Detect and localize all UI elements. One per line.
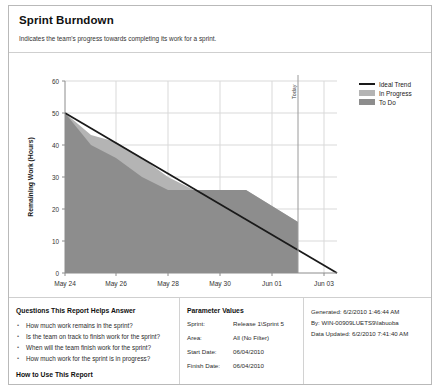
param-value: All (No Filter) — [233, 334, 296, 348]
param-label: Area: — [187, 334, 233, 348]
burndown-chart: Today 60 50 40 30 20 10 — [9, 53, 431, 296]
list-item: • When will the team finish work for the… — [16, 342, 172, 353]
param-value: 06/04/2010 — [233, 348, 296, 362]
report-header: Sprint Burndown Indicates the team's pro… — [9, 6, 431, 43]
bullet-icon: • — [17, 353, 19, 364]
bullet-icon: • — [17, 320, 19, 331]
bottom-panels: Questions This Report Helps Answer • How… — [9, 298, 431, 384]
y-tick-label: 60 — [52, 78, 60, 85]
param-value: Release 1\Sprint 5 — [233, 320, 296, 334]
y-tick-labels: 60 50 40 30 20 10 0 — [52, 78, 60, 277]
parameter-values-table: Sprint: Release 1\Sprint 5 Area: All (No… — [187, 320, 296, 376]
legend-label-ideal-trend: Ideal Trend — [379, 81, 411, 88]
x-tick-label: May 24 — [54, 280, 76, 288]
param-value: 06/04/2010 — [233, 362, 296, 376]
page-title: Sprint Burndown — [19, 13, 421, 27]
param-label: Sprint: — [187, 320, 233, 334]
bullet-icon: • — [17, 342, 19, 353]
questions-panel-heading: Questions This Report Helps Answer — [16, 306, 172, 315]
table-row: Area: All (No Filter) — [187, 334, 296, 348]
question-text: Is the team on track to finish work for … — [26, 333, 160, 340]
today-label: Today — [291, 84, 297, 99]
parameter-values-heading: Parameter Values — [187, 306, 296, 315]
x-tick-label: May 28 — [157, 280, 179, 288]
y-tick-label: 40 — [52, 142, 60, 149]
questions-panel: Questions This Report Helps Answer • How… — [9, 298, 179, 384]
table-row: Finish Date: 06/04/2010 — [187, 362, 296, 376]
report-frame: Sprint Burndown Indicates the team's pro… — [8, 5, 432, 385]
y-tick-label: 20 — [52, 206, 60, 213]
question-text: How much work for the sprint is in progr… — [26, 355, 150, 362]
chart-legend: Ideal Trend In Progress To Do — [359, 81, 412, 106]
y-tick-label: 0 — [55, 270, 59, 277]
generated-by-user: By: WIN-00909LUETS9\labuoba — [311, 317, 424, 328]
x-tick-labels: May 24 May 26 May 28 May 30 Jun 01 Jun 0… — [54, 280, 334, 288]
list-item: • Is the team on track to finish work fo… — [16, 331, 172, 342]
y-tick-label: 30 — [52, 174, 60, 181]
x-tick-label: Jun 01 — [262, 280, 282, 287]
table-row: Sprint: Release 1\Sprint 5 — [187, 320, 296, 334]
x-tick-label: May 30 — [209, 280, 231, 288]
legend-swatch-in-progress — [359, 90, 375, 96]
how-to-use-this-report-link[interactable]: How to Use This Report — [16, 370, 172, 379]
chart-svg: Today 60 50 40 30 20 10 — [9, 53, 431, 296]
report-subtitle: Indicates the team's progress towards co… — [19, 34, 421, 43]
report-metadata-panel: Generated: 6/2/2010 1:46:44 AM By: WIN-0… — [303, 298, 431, 384]
param-label: Finish Date: — [187, 362, 233, 376]
generated-timestamp: Generated: 6/2/2010 1:46:44 AM — [311, 306, 424, 317]
param-label: Start Date: — [187, 348, 233, 362]
questions-list: • How much work remains in the sprint? •… — [16, 320, 172, 364]
x-tick-label: Jun 03 — [314, 280, 334, 287]
question-text: How much work remains in the sprint? — [26, 322, 133, 329]
legend-label-in-progress: In Progress — [379, 90, 412, 98]
question-text: When will the team finish work for the s… — [26, 344, 151, 351]
y-axis-title: Remaining Work (Hours) — [27, 137, 35, 217]
table-row: Start Date: 06/04/2010 — [187, 348, 296, 362]
list-item: • How much work for the sprint is in pro… — [16, 353, 172, 364]
parameter-values-panel: Parameter Values Sprint: Release 1\Sprin… — [179, 298, 303, 384]
y-tick-label: 10 — [52, 238, 60, 245]
x-tick-label: May 26 — [105, 280, 127, 288]
list-item: • How much work remains in the sprint? — [16, 320, 172, 331]
data-updated-timestamp: Data Updated: 6/2/2010 7:41:40 AM — [311, 328, 424, 339]
legend-label-to-do: To Do — [379, 99, 396, 106]
legend-swatch-to-do — [359, 99, 375, 105]
bullet-icon: • — [17, 331, 19, 342]
y-tick-label: 50 — [52, 110, 60, 117]
